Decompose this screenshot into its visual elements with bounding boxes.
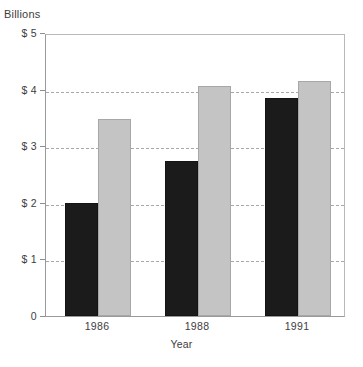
y-axis-tick-label: $ 3 bbox=[22, 140, 38, 153]
bar-series-dark-1991 bbox=[265, 98, 298, 316]
x-axis-title: Year bbox=[0, 338, 363, 351]
x-axis-tick-label: 1991 bbox=[285, 320, 310, 333]
y-axis-tick-label: $ 1 bbox=[22, 253, 38, 266]
bar-series-dark-1988 bbox=[165, 161, 198, 316]
bar-series-light-1991 bbox=[298, 81, 331, 316]
plot-area bbox=[45, 34, 345, 317]
y-axis-tick-label: $ 2 bbox=[22, 197, 38, 210]
bars-layer bbox=[46, 35, 344, 316]
bar-series-light-1988 bbox=[198, 86, 231, 316]
y-axis-tick-label: 0 bbox=[31, 310, 37, 323]
bar-series-dark-1986 bbox=[65, 203, 98, 316]
bar-chart-figure: Billions 0$ 1$ 2$ 3$ 4$ 5 198619881991 Y… bbox=[0, 0, 363, 367]
bar-series-light-1986 bbox=[98, 119, 131, 316]
y-axis-tick-label: $ 5 bbox=[22, 27, 38, 40]
x-axis: 198619881991 bbox=[45, 318, 345, 336]
x-axis-tick-label: 1988 bbox=[185, 320, 210, 333]
x-axis-tick-label: 1986 bbox=[85, 320, 110, 333]
y-axis-tick-label: $ 4 bbox=[22, 84, 38, 97]
y-axis: 0$ 1$ 2$ 3$ 4$ 5 bbox=[0, 34, 45, 317]
y-axis-unit-caption: Billions bbox=[4, 8, 40, 21]
